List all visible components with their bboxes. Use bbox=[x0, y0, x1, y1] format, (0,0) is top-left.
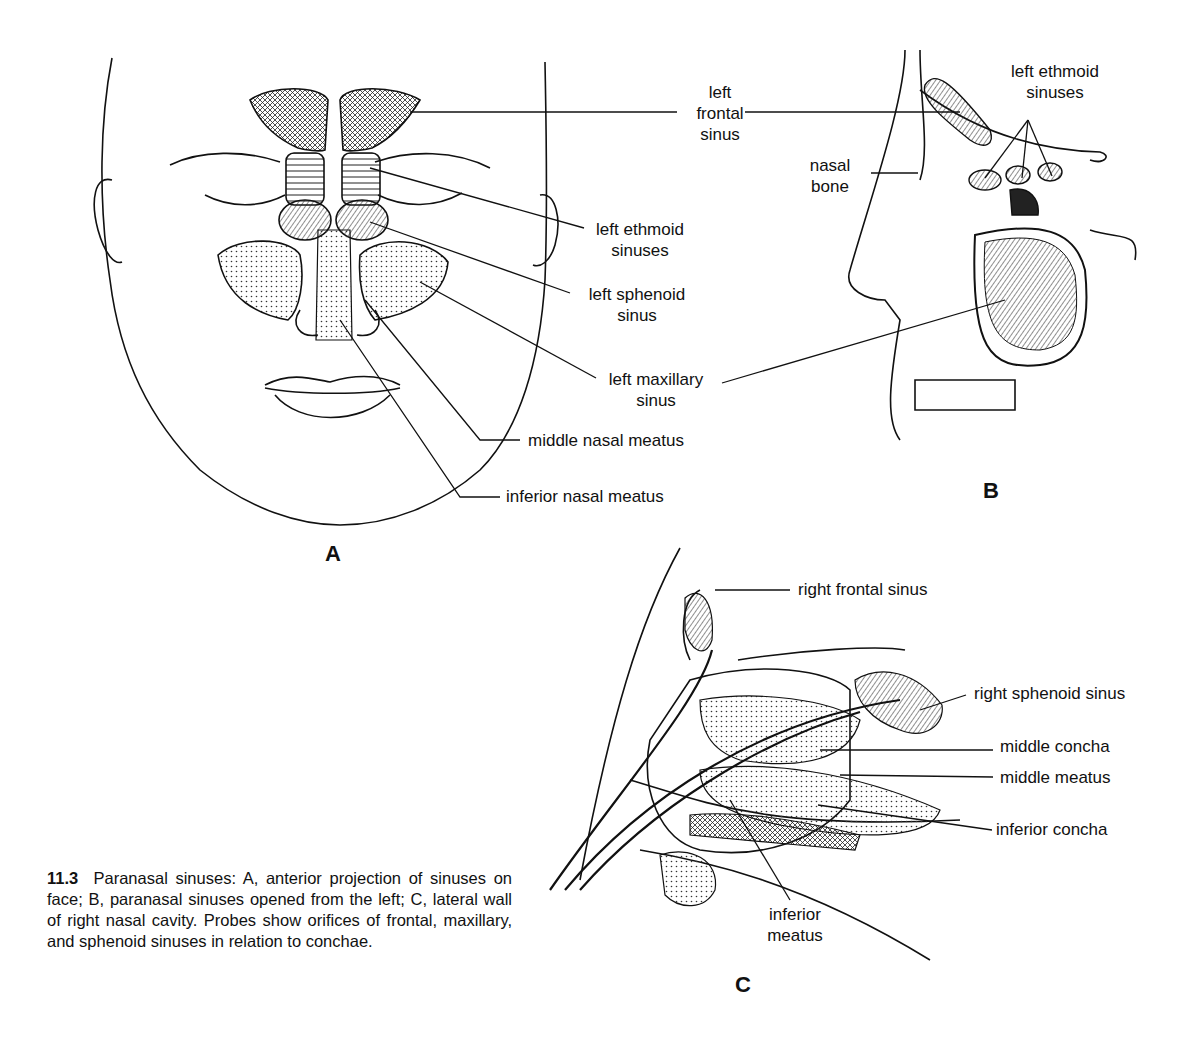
label-a-inferior-nasal-meatus: inferior nasal meatus bbox=[506, 487, 664, 507]
label-b-nasal-bone-line2: bone bbox=[800, 177, 860, 197]
label-a-frontal-line1: left bbox=[680, 83, 760, 103]
label-b-ethmoid-line1: left ethmoid bbox=[1000, 62, 1110, 82]
panel-letter-b: B bbox=[983, 478, 999, 504]
label-b-nasal-bone-line1: nasal bbox=[800, 156, 860, 176]
figure-caption-text: Paranasal sinuses: A, anterior projectio… bbox=[47, 869, 512, 950]
panel-b-skull bbox=[849, 50, 1136, 440]
label-a-ethmoid-line2: sinuses bbox=[580, 241, 700, 261]
label-a-sphenoid-line1: left sphenoid bbox=[572, 285, 702, 305]
panel-letter-a: A bbox=[325, 541, 341, 567]
label-a-ethmoid-line1: left ethmoid bbox=[580, 220, 700, 240]
label-a-frontal-line3: sinus bbox=[680, 125, 760, 145]
figure-caption: 11.3 Paranasal sinuses: A, anterior proj… bbox=[47, 868, 512, 952]
label-b-ethmoid-line2: sinuses bbox=[1000, 83, 1110, 103]
label-c-middle-concha: middle concha bbox=[1000, 737, 1110, 757]
label-a-maxillary-line1: left maxillary bbox=[600, 370, 712, 390]
panel-a-sinuses bbox=[218, 89, 448, 340]
label-c-middle-meatus: middle meatus bbox=[1000, 768, 1111, 788]
label-c-inferior-concha: inferior concha bbox=[996, 820, 1108, 840]
label-c-inferior-meatus-line1: inferior bbox=[760, 905, 830, 925]
label-c-inferior-meatus-line2: meatus bbox=[760, 926, 830, 946]
label-a-frontal-line2: frontal bbox=[680, 104, 760, 124]
panel-letter-c: C bbox=[735, 972, 751, 998]
label-c-right-frontal-sinus: right frontal sinus bbox=[798, 580, 927, 600]
label-a-sphenoid-line2: sinus bbox=[572, 306, 702, 326]
label-a-middle-nasal-meatus: middle nasal meatus bbox=[528, 431, 684, 451]
figure-number: 11.3 bbox=[47, 869, 78, 887]
label-a-maxillary-line2: sinus bbox=[600, 391, 712, 411]
label-c-right-sphenoid-sinus: right sphenoid sinus bbox=[974, 684, 1125, 704]
